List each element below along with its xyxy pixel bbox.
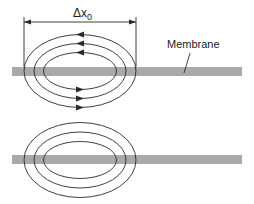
arrow-left-icon xyxy=(76,50,84,56)
arrow-left-icon xyxy=(76,41,84,47)
arrow-right-icon xyxy=(76,96,84,102)
arrow-right-icon xyxy=(76,87,84,93)
membrane-top xyxy=(12,67,242,76)
dimension-label: Δx0 xyxy=(73,6,92,22)
dimension-arrow-left-icon xyxy=(24,20,31,25)
dimension-arrow-right-icon xyxy=(129,20,136,25)
membrane-label: Membrane xyxy=(167,38,220,50)
field-loop-diagram: Δx0 Membrane xyxy=(0,0,254,204)
dimension-annotation: Δx0 xyxy=(24,6,136,71)
arrow-left-icon xyxy=(76,32,84,38)
arrow-right-icon xyxy=(76,105,84,111)
membrane-bottom xyxy=(12,155,242,164)
